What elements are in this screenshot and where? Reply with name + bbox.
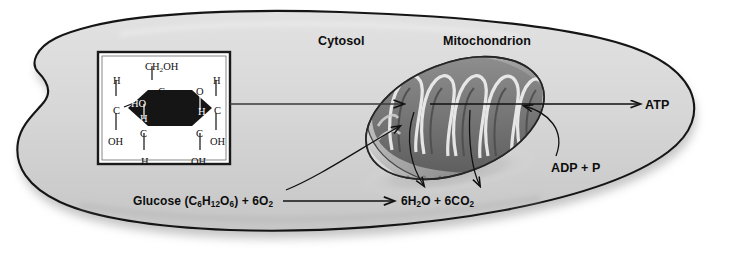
glucose-atom-c-bottom-left: C: [140, 128, 147, 139]
adp-label: ADP + P: [551, 161, 600, 175]
glucose-atom-c-top-left: C: [158, 86, 165, 97]
glucose-atom-oh-bottom: OH: [191, 156, 206, 167]
mitochondrion-label: Mitochondrion: [443, 34, 531, 48]
glucose-atom-c-bottom-right: C: [196, 128, 203, 139]
glucose-atom-ch2oh-top: CH2OH: [145, 61, 178, 74]
glucose-atom-ho-inner: HO: [131, 98, 146, 109]
glucose-atom-o-ring: O: [196, 86, 204, 97]
products-label: 6H2O + 6CO2: [401, 194, 474, 209]
glucose-atom-c-left: C: [113, 105, 120, 116]
glucose-atom-h-inner-right: H: [198, 106, 206, 117]
glucose-atom-h-bottom-left: H: [141, 156, 149, 167]
cytosol-label: Cytosol: [318, 34, 365, 48]
glucose-atom-c-right: C: [214, 105, 221, 116]
reactants-label: Glucose (C6H12O6) + 6O2: [133, 194, 273, 209]
cell-respiration-diagram: Cytosol Mitochondrion ATP ADP + P Glucos…: [0, 0, 734, 255]
glucose-atom-h-upper-right: H: [213, 75, 221, 86]
diagram-canvas: [0, 0, 734, 255]
atp-label: ATP: [645, 98, 669, 112]
glucose-atom-h-inner: H: [140, 113, 148, 124]
glucose-atom-h-upper-left: H: [113, 75, 121, 86]
glucose-atom-oh-lower-right: OH: [210, 136, 225, 147]
glucose-atom-oh-lower-left: OH: [108, 136, 123, 147]
